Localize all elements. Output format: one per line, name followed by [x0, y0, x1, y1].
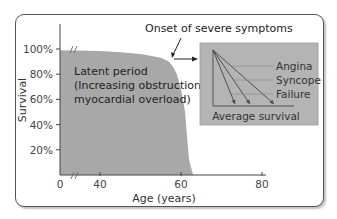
latent-period-label-line-2: (Increasing obstruction,	[74, 79, 204, 92]
x-tick-label: 60	[174, 178, 187, 190]
y-tick-label: 60%	[30, 93, 53, 105]
x-tick-label: 80	[255, 178, 268, 190]
y-tick-label: 40%	[30, 119, 53, 131]
inset-line-label: Syncope	[276, 74, 321, 86]
y-tick-label: 20%	[30, 144, 53, 156]
onset-pointer-arrow	[173, 38, 181, 55]
x-tick-label: 40	[93, 178, 106, 190]
y-axis-title: Survival	[16, 78, 29, 122]
x-tick-label: 0	[57, 178, 64, 190]
inset-title: Average survival	[212, 110, 300, 122]
y-tick-label: 80%	[30, 68, 53, 80]
latent-period-label-line-3: myocardial overload)	[74, 93, 191, 106]
onset-label: Onset of severe symptoms	[145, 22, 293, 35]
x-axis-title: Age (years)	[132, 192, 196, 205]
inset-line-label: Angina	[276, 60, 313, 72]
latent-period-label-line-1: Latent period	[74, 65, 148, 78]
onset-to-inset-arrowhead	[192, 57, 198, 62]
survival-chart: 20%40%60%80%100% 0406080 Age (years) Sur…	[0, 0, 337, 219]
inset-line-label: Failure	[276, 88, 311, 100]
y-tick-label: 100%	[23, 43, 53, 55]
